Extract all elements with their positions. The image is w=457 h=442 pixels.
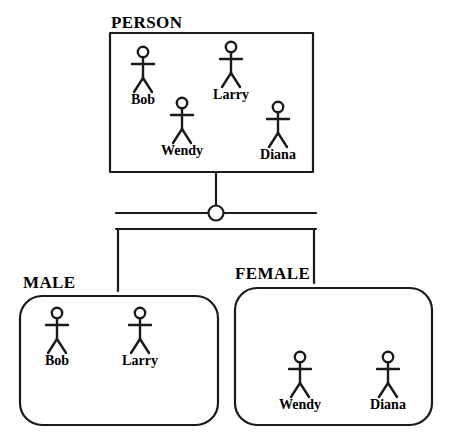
stick-figure-wendy [289, 352, 311, 397]
generalization-circle [209, 206, 224, 221]
figure-leg-right [57, 339, 66, 353]
figure-leg-left [379, 383, 388, 397]
figure-leg-left [134, 78, 143, 92]
member-name-bob: Bob [131, 93, 155, 107]
stick-figure-larry [129, 308, 151, 353]
figure-leg-right [182, 129, 191, 143]
figure-head-icon [135, 308, 145, 318]
stick-figure-diana [377, 352, 399, 397]
stick-figure-bob [132, 47, 154, 92]
figure-leg-left [173, 129, 182, 143]
stick-figure-wendy [171, 98, 193, 143]
figure-leg-right [231, 73, 240, 87]
figure-leg-right [143, 78, 152, 92]
figure-head-icon [226, 42, 236, 52]
figure-leg-right [140, 339, 149, 353]
figure-leg-right [300, 383, 309, 397]
figure-leg-left [269, 133, 278, 147]
figure-head-icon [52, 308, 62, 318]
diagram-vector-layer [0, 0, 457, 442]
member-name-diana: Diana [370, 398, 406, 412]
figure-head-icon [295, 352, 305, 362]
member-name-wendy: Wendy [161, 144, 203, 158]
figure-leg-right [278, 133, 287, 147]
figure-head-icon [138, 47, 148, 57]
subclass-label-male: MALE [23, 274, 76, 291]
diagram-canvas: PERSON MALE FEMALE BobLarryWendyDianaBob… [0, 0, 457, 442]
stick-figure-bob [46, 308, 68, 353]
figure-leg-left [131, 339, 140, 353]
figure-leg-left [48, 339, 57, 353]
figure-leg-right [388, 383, 397, 397]
stick-figure-larry [220, 42, 242, 87]
figure-head-icon [273, 102, 283, 112]
subclass-label-female: FEMALE [235, 265, 310, 282]
superclass-label-person: PERSON [111, 14, 182, 31]
figure-leg-left [222, 73, 231, 87]
member-name-larry: Larry [213, 88, 249, 102]
member-name-bob: Bob [45, 354, 69, 368]
figure-head-icon [177, 98, 187, 108]
member-name-diana: Diana [260, 148, 296, 162]
member-name-larry: Larry [122, 354, 158, 368]
figure-leg-left [291, 383, 300, 397]
stick-figure-diana [267, 102, 289, 147]
figure-head-icon [383, 352, 393, 362]
member-name-wendy: Wendy [279, 398, 321, 412]
